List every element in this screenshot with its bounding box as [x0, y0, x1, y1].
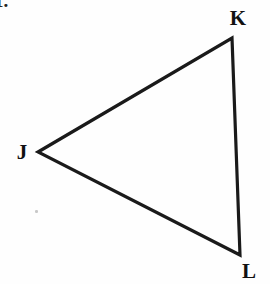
vertex-label-k: K [230, 8, 246, 29]
vertex-label-j: J [17, 142, 28, 163]
triangle-canvas [0, 0, 270, 284]
scan-speck [35, 210, 38, 213]
geometry-figure: 1. J K L [0, 0, 270, 284]
vertex-label-l: L [242, 261, 256, 282]
triangle-jkl-shape [38, 38, 240, 255]
